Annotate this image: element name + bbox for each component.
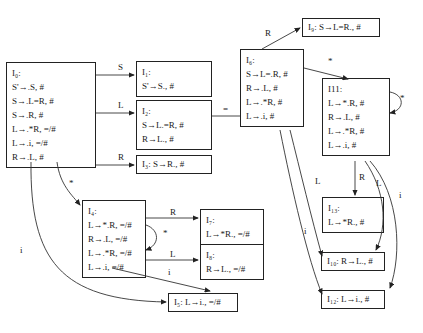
lr-item: L→.i, =/# (88, 260, 140, 274)
lr-item: I₉: S→L=R., # (308, 22, 361, 32)
state-I2: I₂: S→L.=R, # R→L., # (136, 100, 212, 150)
state-I5: I₅: L→i., =/# (168, 293, 238, 312)
edge-label-I6-I10: L (315, 176, 321, 186)
state-title: I11: (328, 82, 384, 96)
state-title: I₇: (206, 213, 258, 227)
lr-item: R→L., =/# (206, 262, 258, 276)
state-I6: I₆: S→L=.R, # R→.L, # L→.*R, # L→.i, # (240, 49, 304, 127)
lr-item: S→L.=R, # (142, 118, 206, 132)
lr-item: R→.L, # (246, 81, 298, 95)
lr-item: L→.*R, # (246, 95, 298, 109)
lr-item: L→.*R, # (328, 124, 384, 138)
lr-item: L→*.R, =/# (88, 218, 140, 232)
lr-item: L→.i, # (328, 138, 384, 152)
lr-item: S→.L=R, # (12, 94, 90, 108)
state-I7: I₇: L→*R., =/# (200, 209, 264, 245)
lr-item: L→*.R, # (328, 96, 384, 110)
lr-item: I₁₀: R→L., # (327, 256, 373, 266)
state-title: I₀: (12, 66, 90, 80)
edge-label-I11-I13: R (359, 172, 365, 182)
edge-label-I0-I2: L (118, 100, 124, 110)
diagram-canvas: I₀: S'→.S, # S→.L=R, # S→.R, # L→.*R, =/… (0, 0, 423, 333)
lr-item: R→.L, =/# (88, 232, 140, 246)
state-I8: I₈: R→L., =/# (200, 244, 264, 280)
edge-label-I4-I7: R (170, 207, 176, 217)
edge-label-I6-I12: i (304, 226, 307, 236)
edge-label-I11-I11: * (400, 93, 405, 103)
state-I11: I11: L→*.R, # R→.L, # L→.*R, # L→.i, # (322, 78, 390, 156)
state-title: I₂: (142, 104, 206, 118)
state-I9: I₉: S→L=R., # (302, 18, 380, 37)
lr-item: S'→S., # (142, 79, 206, 93)
edge-label-I0-I5: i (20, 245, 23, 255)
lr-item: R→.L, # (328, 110, 384, 124)
edge-label-I11-I10: L (376, 178, 382, 188)
state-I12: I₁₂: L→i., # (321, 290, 385, 309)
edge-label-I0-I3: R (118, 152, 124, 162)
edge-label-I6-I11: * (328, 56, 333, 66)
lr-item: L→.*R, =/# (88, 246, 140, 260)
state-title: I₁: (142, 65, 206, 79)
lr-item: L→.i, =/# (12, 136, 90, 150)
lr-item: S→.R, # (12, 108, 90, 122)
lr-item: R→.L, # (12, 150, 90, 164)
edge-label-I2-I6: = (223, 104, 228, 114)
state-title: I₆: (246, 53, 298, 67)
lr-item: I₃: S→R., # (142, 159, 184, 169)
state-I13: I₁₃: L→*R., # (322, 197, 384, 233)
edge-label-I4-I8: L (170, 249, 176, 259)
edge-label-I0-I4: * (69, 178, 74, 188)
state-I10: I₁₀: R→L., # (321, 252, 385, 271)
state-I1: I₁: S'→S., # (136, 61, 212, 97)
lr-item: S→L=.R, # (246, 67, 298, 81)
state-I0: I₀: S'→.S, # S→.L=R, # S→.R, # L→.*R, =/… (6, 62, 96, 168)
state-title: I₄: (88, 204, 140, 218)
lr-item: I₁₂: L→i., # (327, 294, 369, 304)
edge-label-I0-I1: S (118, 62, 123, 72)
edge-label-I4-I4: * (163, 228, 168, 238)
lr-item: L→.*R, =/# (12, 122, 90, 136)
lr-item: I₅: L→i., =/# (174, 297, 221, 307)
state-I4: I₄: L→*.R, =/# R→.L, =/# L→.*R, =/# L→.i… (82, 200, 146, 278)
lr-item: S'→.S, # (12, 80, 90, 94)
edge-label-I11-I12: i (399, 190, 402, 200)
state-title: I₈: (206, 248, 258, 262)
lr-item: L→*R., =/# (206, 227, 258, 241)
state-I3: I₃: S→R., # (136, 155, 212, 174)
edge-label-I6-I9: R (265, 28, 271, 38)
state-title: I₁₃: (328, 201, 378, 215)
lr-item: L→.i, # (246, 109, 298, 123)
lr-item: L→*R., # (328, 215, 378, 229)
lr-item: R→L., # (142, 132, 206, 146)
edge-label-I4-I5: i (168, 267, 171, 277)
